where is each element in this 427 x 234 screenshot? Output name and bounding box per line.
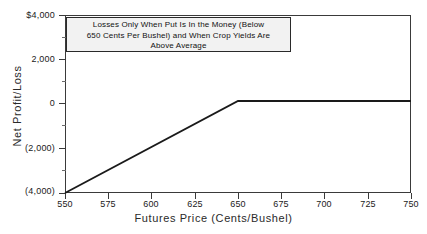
y-axis-title: Net Profit/Loss (11, 36, 23, 176)
y-tick-label-0: 0 (50, 98, 55, 108)
y-tick-neg2000 (59, 148, 66, 149)
y-tick-label-neg2000: (2,000) (25, 143, 55, 153)
x-tick-label-600: 600 (137, 199, 165, 209)
x-tick-label-675: 675 (267, 199, 295, 209)
y-tick-4000 (59, 15, 66, 16)
y-tick-2000 (59, 59, 66, 60)
annotation-line-1: Losses Only When Put Is In the Money (Be… (71, 20, 286, 31)
chart-screenshot: $4,000 2,000 0 (2,000) (4,000) 550 575 6… (0, 0, 427, 234)
x-axis-title: Futures Price (Cents/Bushel) (0, 212, 427, 224)
annotation-line-2: 650 Cents Per Bushel) and When Crop Yiel… (71, 31, 286, 42)
y-tick-minor-neg1000 (62, 125, 66, 126)
x-tick-label-700: 700 (310, 199, 338, 209)
y-tick-minor-neg3000 (62, 170, 66, 171)
y-tick-label-neg4000: (4,000) (25, 186, 55, 196)
x-tick-label-750: 750 (397, 199, 425, 209)
y-tick-0 (59, 103, 66, 104)
x-tick-label-650: 650 (224, 199, 252, 209)
annotation-line-3: Above Average (71, 41, 286, 52)
annotation-losses-note: Losses Only When Put Is In the Money (Be… (66, 17, 291, 52)
x-tick-label-625: 625 (181, 199, 209, 209)
x-tick-label-575: 575 (94, 199, 122, 209)
x-tick-label-725: 725 (354, 199, 382, 209)
y-tick-label-4000: $4,000 (26, 10, 55, 20)
y-tick-minor-1000 (62, 81, 66, 82)
x-tick-label-550: 550 (51, 199, 79, 209)
y-tick-label-2000: 2,000 (31, 54, 55, 64)
